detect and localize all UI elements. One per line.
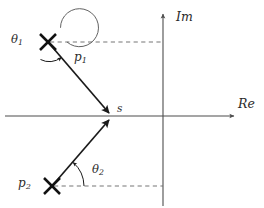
angle-label-theta2-base: θ xyxy=(92,162,99,176)
pole-label-p1: p1 xyxy=(74,51,87,64)
angle-label-theta2: θ2 xyxy=(92,164,104,177)
angle-label-theta1: θ1 xyxy=(11,34,23,47)
angle-arc-theta2 xyxy=(73,163,84,187)
test-point-label-s: s xyxy=(117,103,122,114)
angle-label-theta1-base: θ xyxy=(11,32,18,46)
angle-arc-theta1-arrowtip xyxy=(41,58,62,62)
pole-label-p2-base: p xyxy=(18,176,26,190)
angle-arc-theta1 xyxy=(60,9,98,47)
diagram-svg xyxy=(0,0,264,208)
imaginary-axis-label: Im xyxy=(176,11,193,24)
angle-label-theta2-sub: 2 xyxy=(99,168,104,177)
real-axis-label: Re xyxy=(238,98,255,111)
pole-label-p2-sub: 2 xyxy=(26,181,31,191)
figure-canvas: Im Re p1 p2 s θ1 θ2 xyxy=(0,0,264,208)
pole-label-p1-base: p xyxy=(74,50,82,64)
angle-label-theta1-sub: 1 xyxy=(18,38,23,47)
pole-label-p1-sub: 1 xyxy=(82,55,87,65)
pole-label-p2: p2 xyxy=(18,177,31,190)
